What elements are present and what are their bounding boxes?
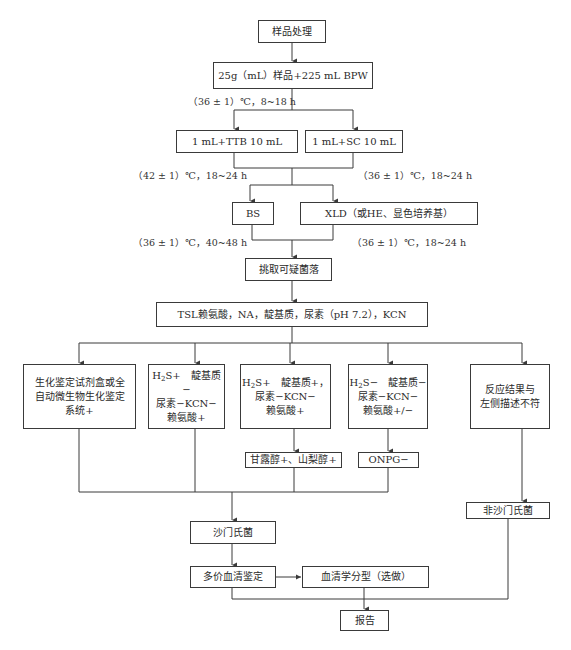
result-type-2-line-1: H2S+ 靛基质−: [149, 369, 224, 397]
mismatch-line-1: 反应结果与: [485, 383, 535, 397]
serotyping-node: 血清学分型（选做）: [302, 566, 429, 588]
ttb-node: 1 mL+TTB 10 mL: [176, 130, 298, 153]
xld-label: XLD（或HE、显色培养基）: [325, 207, 453, 221]
non-salmonella-label: 非沙门氏菌: [483, 504, 533, 518]
biochem-kit-line-1: 生化鉴定试剂盒或全: [35, 376, 125, 390]
result-type-4-line-2: 尿素−KCN−: [358, 390, 418, 404]
sugar-test-node: 甘露醇+、山梨醇+: [245, 452, 342, 468]
biochem-kit-node: 生化鉴定试剂盒或全 自动微生物生化鉴定 系统+: [23, 364, 136, 429]
result-type-3-node: H2S+ 靛基质+， 尿素−KCN− 赖氨酸+: [240, 364, 331, 429]
mismatch-line-2: 左侧描述不符: [480, 397, 540, 411]
bs-label: BS: [246, 207, 260, 221]
sc-condition: （36 ± 1）℃，18~24 h: [358, 168, 472, 182]
sc-node: 1 mL+SC 10 mL: [305, 130, 403, 153]
screening-tests-node: TSL赖氨酸，NA，靛基质，尿素（pH 7.2），KCN: [156, 302, 428, 327]
polyvalent-serum-node: 多价血清鉴定: [190, 566, 276, 588]
polyvalent-serum-label: 多价血清鉴定: [203, 570, 263, 584]
onpg-node: ONPG−: [358, 452, 419, 468]
mismatch-result-node: 反应结果与 左侧描述不符: [470, 364, 550, 429]
result-type-2-line-2: 尿素−KCN−: [156, 397, 216, 411]
result-type-3-line-3: 赖氨酸+: [266, 404, 304, 418]
result-type-2-node: H2S+ 靛基质− 尿素−KCN− 赖氨酸+: [148, 364, 225, 429]
screening-tests-label: TSL赖氨酸，NA，靛基质，尿素（pH 7.2），KCN: [178, 308, 407, 322]
sample-processing-label: 样品处理: [272, 25, 312, 39]
result-type-4-line-3: 赖氨酸+/−: [363, 404, 413, 418]
bs-condition: （36 ± 1）℃，40~48 h: [133, 235, 247, 249]
report-node: 报告: [340, 610, 389, 631]
ttb-label: 1 mL+TTB 10 mL: [192, 135, 282, 149]
salmonella-node: 沙门氏菌: [190, 521, 276, 544]
pre-enrichment-label: 25g（mL）样品+225 mL BPW: [218, 69, 368, 83]
result-type-2-line-3: 赖氨酸+: [167, 411, 205, 425]
xld-condition: （36 ± 1）℃，18~24 h: [352, 235, 466, 249]
non-salmonella-node: 非沙门氏菌: [466, 502, 550, 519]
pre-enrich-condition: （36 ± 1）℃，8~18 h: [188, 94, 296, 108]
result-type-4-line-1: H2S− 靛基质−: [350, 376, 427, 390]
pre-enrichment-node: 25g（mL）样品+225 mL BPW: [213, 62, 373, 89]
result-type-3-line-1: H2S+ 靛基质+，: [242, 376, 329, 390]
salmonella-label: 沙门氏菌: [213, 526, 253, 540]
result-type-4-node: H2S− 靛基质− 尿素−KCN− 赖氨酸+/−: [348, 364, 428, 429]
pick-colonies-node: 挑取可疑菌落: [245, 258, 332, 281]
result-type-3-line-2: 尿素−KCN−: [255, 390, 315, 404]
biochem-kit-line-2: 自动微生物生化鉴定: [35, 390, 125, 404]
ttb-condition: （42 ± 1）℃，18~24 h: [133, 168, 247, 182]
bs-node: BS: [232, 202, 274, 225]
xld-node: XLD（或HE、显色培养基）: [300, 202, 478, 225]
onpg-label: ONPG−: [368, 453, 408, 467]
report-label: 报告: [355, 614, 375, 628]
pick-colonies-label: 挑取可疑菌落: [259, 263, 319, 277]
sugar-test-label: 甘露醇+、山梨醇+: [250, 453, 337, 467]
sample-processing-node: 样品处理: [258, 20, 326, 43]
sc-label: 1 mL+SC 10 mL: [312, 135, 396, 149]
biochem-kit-line-3: 系统+: [65, 404, 93, 418]
serotyping-label: 血清学分型（选做）: [321, 570, 411, 584]
